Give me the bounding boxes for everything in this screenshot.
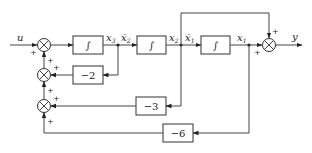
svg-text:∫: ∫ (213, 40, 218, 51)
gain-block-minus6: −6 (163, 124, 193, 142)
svg-text:−6: −6 (171, 128, 186, 139)
sign-sum3-right: + (53, 94, 60, 103)
wire-feedback-x1 (193, 45, 249, 133)
integrator-block-3: ∫ (201, 36, 230, 54)
summing-junction-2 (38, 69, 51, 82)
label-x2dot: ẋ2 (121, 32, 131, 44)
output-label: y (291, 31, 298, 42)
label-x1dot: ẋ1 (185, 32, 194, 44)
sign-sum1-left: + (30, 48, 37, 57)
sign-sum2-right: + (53, 63, 60, 72)
sign-sumout-top: + (272, 27, 279, 36)
wire-feedback-x2 (166, 45, 181, 106)
integrator-block-2: ∫ (137, 36, 166, 54)
label-x2: x2 (169, 32, 179, 44)
sign-sum1-bottom: + (47, 56, 54, 65)
svg-text:−2: −2 (81, 70, 96, 81)
summing-junction-3 (38, 100, 51, 113)
wire-feedback-x3 (103, 45, 118, 75)
gain-block-minus2: −2 (73, 66, 103, 84)
block-diagram: u + ∫ x3 ẋ2 ∫ x2 ẋ1 ∫ x1 + + y (0, 0, 312, 153)
svg-text:∫: ∫ (85, 40, 90, 51)
label-x1: x1 (237, 32, 246, 44)
summing-junction-output (263, 39, 276, 52)
sign-sum2-bottom: + (47, 86, 54, 95)
sign-sum3-bottom: + (47, 117, 54, 126)
label-x3: x3 (106, 32, 116, 44)
wire-gain6-sum3 (44, 113, 163, 134)
gain-block-minus3: −3 (136, 97, 166, 115)
svg-text:∫: ∫ (149, 40, 154, 51)
sign-sumout-left: + (254, 48, 261, 57)
summing-junction-1 (38, 39, 51, 52)
input-label: u (17, 32, 23, 43)
integrator-block-1: ∫ (73, 36, 103, 54)
svg-text:−3: −3 (144, 101, 159, 112)
